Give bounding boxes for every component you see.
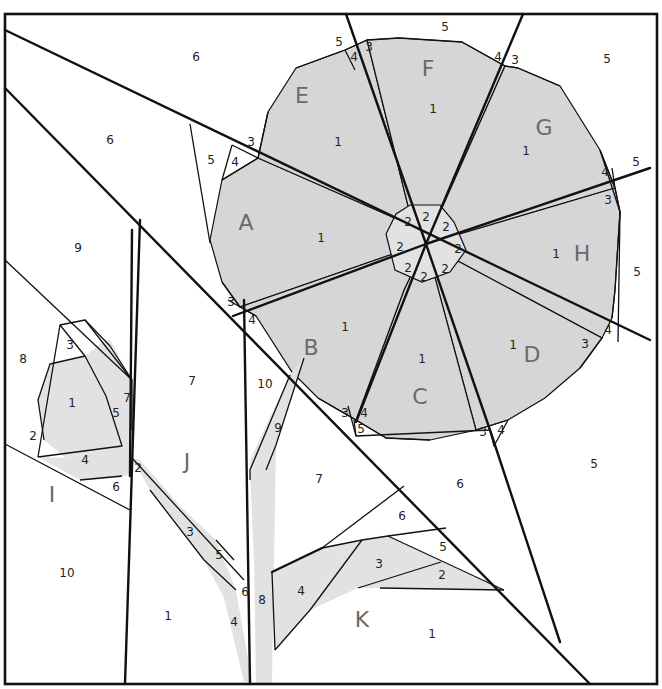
piece-number: 1	[164, 609, 172, 623]
piece-number: 4	[297, 584, 305, 598]
piece-number: 1	[552, 247, 560, 261]
piece-number: 5	[590, 457, 598, 471]
piece-number: 1	[334, 135, 342, 149]
piece-number: 4	[604, 323, 612, 337]
piece-number: 5	[207, 153, 215, 167]
piece-number: 5	[633, 265, 641, 279]
piece-number: 6	[241, 585, 249, 599]
piece-number: 3	[581, 337, 589, 351]
piece-number: 1	[418, 352, 426, 366]
section-label-b: B	[303, 335, 318, 360]
piece-number: 3	[479, 425, 487, 439]
piece-number: 3	[375, 557, 383, 571]
section-label-f: F	[422, 56, 435, 81]
section-label-h: H	[574, 241, 591, 266]
piece-number: 2	[404, 261, 412, 275]
piece-number: 10	[257, 377, 272, 391]
piece-number: 5	[441, 20, 449, 34]
piece-number: 7	[123, 391, 131, 405]
piece-number: 1	[522, 144, 530, 158]
piece-number: 9	[274, 421, 282, 435]
piece-number: 3	[66, 338, 74, 352]
piece-number: 6	[398, 509, 406, 523]
piece-number: 2	[454, 242, 462, 256]
piece-number: 1	[429, 102, 437, 116]
quilt-pattern-diagram: 6695345431514351453154313411122222222345…	[0, 0, 662, 689]
piece-number: 8	[19, 352, 27, 366]
piece-number: 5	[112, 406, 120, 420]
piece-number: 3	[365, 40, 373, 54]
piece-number: 5	[603, 52, 611, 66]
piece-number: 3	[511, 53, 519, 67]
piece-number: 6	[456, 477, 464, 491]
piece-number: 7	[315, 472, 323, 486]
section-label-j: J	[182, 449, 191, 474]
piece-number: 4	[230, 615, 238, 629]
piece-number: 2	[396, 240, 404, 254]
piece-number: 7	[188, 374, 196, 388]
piece-number: 1	[509, 338, 517, 352]
piece-number: 5	[439, 540, 447, 554]
piece-number: 2	[422, 210, 430, 224]
piece-number: 10	[59, 566, 74, 580]
piece-number: 6	[112, 480, 120, 494]
piece-number: 9	[74, 241, 82, 255]
piece-number: 4	[231, 155, 239, 169]
piece-number: 4	[360, 406, 368, 420]
piece-number: 2	[438, 568, 446, 582]
piece-number: 2	[441, 262, 449, 276]
piece-number: 6	[106, 133, 114, 147]
piece-number: 3	[247, 135, 255, 149]
piece-number: 4	[497, 423, 505, 437]
piece-number: 3	[186, 525, 194, 539]
section-label-i: I	[49, 482, 56, 507]
piece-number: 1	[68, 396, 76, 410]
piece-number: 4	[350, 50, 358, 64]
section-label-c: C	[412, 384, 427, 409]
piece-number: 5	[357, 422, 365, 436]
piece-number: 2	[442, 220, 450, 234]
section-label-d: D	[524, 342, 541, 367]
piece-number: 5	[632, 155, 640, 169]
section-label-g: G	[535, 115, 552, 140]
piece-number: 6	[192, 50, 200, 64]
piece-number: 4	[81, 453, 89, 467]
piece-number: 4	[494, 50, 502, 64]
piece-number: 5	[215, 548, 223, 562]
piece-number: 5	[335, 35, 343, 49]
piece-number: 2	[29, 429, 37, 443]
piece-number: 8	[258, 593, 266, 607]
section-label-a: A	[238, 210, 253, 235]
piece-number: 1	[341, 320, 349, 334]
piece-number: 2	[134, 461, 142, 475]
section-label-k: K	[355, 607, 370, 632]
section-label-e: E	[295, 83, 309, 108]
piece-number: 4	[601, 165, 609, 179]
piece-number: 1	[428, 627, 436, 641]
piece-number: 1	[317, 231, 325, 245]
pattern-canvas: 6695345431514351453154313411122222222345…	[0, 0, 662, 689]
piece-number: 4	[248, 313, 256, 327]
piece-number: 3	[341, 406, 349, 420]
piece-number: 2	[404, 215, 412, 229]
piece-number: 2	[420, 270, 428, 284]
piece-number: 3	[604, 193, 612, 207]
piece-number: 3	[227, 295, 235, 309]
